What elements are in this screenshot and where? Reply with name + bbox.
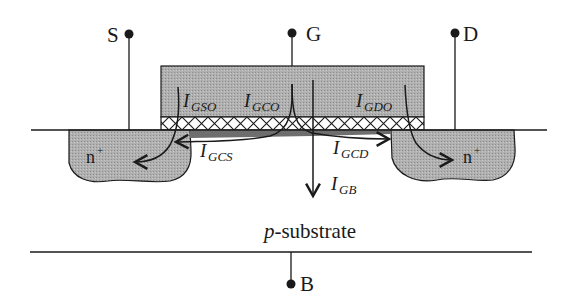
inversion-channel <box>190 131 391 138</box>
svg-text:I: I <box>332 137 341 158</box>
drain-terminal-dot <box>451 29 460 38</box>
source-terminal-dot <box>125 30 134 39</box>
svg-text:I: I <box>199 140 208 161</box>
svg-text:GB: GB <box>339 182 356 197</box>
source-terminal-label: S <box>107 23 119 47</box>
svg-text:+: + <box>474 144 480 156</box>
gate-terminal-dot <box>288 29 297 38</box>
svg-text:GSO: GSO <box>191 99 217 114</box>
svg-text:GCS: GCS <box>208 149 233 164</box>
drain-diffusion <box>391 130 515 181</box>
gate-terminal-label: G <box>306 22 321 46</box>
mosfet-leakage-diagram: S G D I GSO I GCO I GDO I GCS I GCD I GB… <box>0 0 569 304</box>
igcs-label: I GCS <box>199 140 233 164</box>
svg-text:GDO: GDO <box>364 99 393 114</box>
body-terminal-dot <box>287 280 296 289</box>
substrate-label: p-substrate <box>262 219 356 243</box>
svg-text:I: I <box>330 173 339 194</box>
svg-text:n: n <box>463 147 472 167</box>
igb-label: I GB <box>330 173 356 197</box>
drain-terminal-label: D <box>463 22 478 46</box>
svg-text:+: + <box>97 144 103 156</box>
svg-text:GCD: GCD <box>341 146 369 161</box>
body-terminal-label: B <box>300 272 314 296</box>
igcd-label: I GCD <box>332 137 369 161</box>
gate-oxide <box>161 117 424 130</box>
svg-text:GCO: GCO <box>252 99 280 114</box>
svg-text:n: n <box>86 147 95 167</box>
